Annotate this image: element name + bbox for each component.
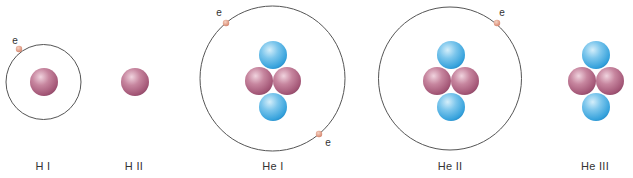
proton [273, 67, 301, 95]
atom-he-ii [423, 41, 479, 121]
species-label-h-ii: H II [125, 160, 143, 172]
atom-he-i [245, 41, 301, 121]
electron [16, 46, 22, 52]
atom-h-ii [121, 68, 149, 96]
atom-h-i [30, 68, 58, 96]
proton [568, 67, 596, 95]
neutron [582, 41, 610, 69]
ionization-states-diagram [0, 0, 633, 178]
species-label-he-ii: He II [438, 160, 463, 172]
neutron [582, 93, 610, 121]
neutron [259, 41, 287, 69]
neutron [259, 93, 287, 121]
neutron [437, 41, 465, 69]
proton [245, 67, 273, 95]
species-label-he-i: He I [262, 160, 283, 172]
electron [223, 20, 229, 26]
electron-label: e [216, 7, 222, 18]
electron-label: e [325, 137, 331, 148]
electron [316, 131, 322, 137]
nuclei-layer [30, 41, 624, 121]
electron-label: e [12, 35, 18, 46]
electron-label: e [499, 7, 505, 18]
neutron [437, 93, 465, 121]
species-label-he-iii: He III [581, 160, 609, 172]
proton [423, 67, 451, 95]
proton [596, 67, 624, 95]
atom-he-iii [568, 41, 624, 121]
electron [494, 20, 500, 26]
species-label-h-i: H I [36, 160, 51, 172]
proton [121, 68, 149, 96]
proton [451, 67, 479, 95]
proton [30, 68, 58, 96]
